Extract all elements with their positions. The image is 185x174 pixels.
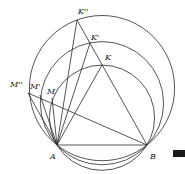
label-k2: K'' xyxy=(77,7,88,16)
label-b: B xyxy=(149,152,156,161)
circle-inner xyxy=(49,65,154,170)
label-k: K xyxy=(104,53,112,62)
label-k1: K' xyxy=(90,33,99,42)
segment-ak1 xyxy=(57,43,90,145)
label-m: M xyxy=(46,87,56,96)
label-m1: M' xyxy=(29,82,40,91)
segments xyxy=(28,20,147,145)
segment-bk2 xyxy=(77,20,147,145)
label-m2: M'' xyxy=(9,80,23,89)
label-a: A xyxy=(49,152,56,161)
end-of-proof-marker xyxy=(173,150,185,157)
segment-m2b xyxy=(28,93,147,145)
geometry-diagram: K'' K' K M'' M' M A B xyxy=(0,0,185,174)
segment-ak2 xyxy=(57,20,77,145)
